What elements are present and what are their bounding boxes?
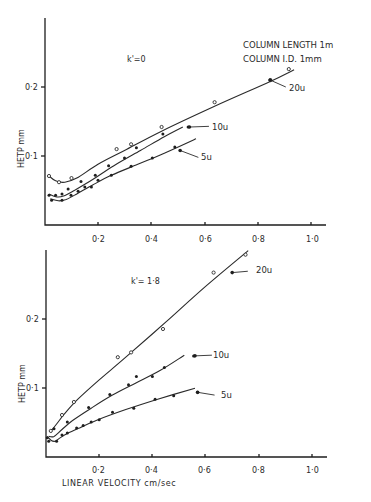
data-point <box>61 199 64 202</box>
data-point <box>87 406 90 409</box>
bottom-label-5u: 5u <box>221 390 232 400</box>
data-point <box>61 434 64 437</box>
data-point <box>77 190 80 193</box>
top-series-layer <box>47 68 294 202</box>
data-point <box>50 199 53 202</box>
data-point <box>72 400 75 403</box>
leader-dot <box>268 78 272 82</box>
curve-10u <box>49 127 183 197</box>
bottom-ytick-label-0.1: 0·1 <box>26 384 39 393</box>
data-point <box>132 407 135 410</box>
top-chart-panel: 0·2 0·1 0·2 0·4 0·6 0·8 1·0 HETP mm k'=0… <box>17 18 333 244</box>
top-xtick-label-0.4: 0·4 <box>145 235 158 244</box>
series-10u <box>46 354 212 439</box>
bottom-xtick-label-1.0: 1·0 <box>306 466 319 475</box>
data-point <box>111 411 114 414</box>
data-point <box>135 146 138 149</box>
data-point <box>163 366 166 369</box>
data-point <box>212 271 215 274</box>
top-k-label: k'=0 <box>127 55 146 64</box>
top-label-5u: 5u <box>201 152 212 162</box>
top-xtick-label-0.2: 0·2 <box>92 235 105 244</box>
leader-line-5u <box>198 392 215 395</box>
bottom-k-label: k'= 1·8 <box>131 277 160 286</box>
data-point <box>70 177 73 180</box>
data-point <box>75 427 78 430</box>
bottom-xtick-label-0.2: 0·2 <box>92 466 105 475</box>
data-point <box>90 186 93 189</box>
data-point <box>70 194 73 197</box>
bottom-axes <box>46 250 327 457</box>
leader-dot <box>230 271 234 275</box>
hetp-figure: 0·2 0·1 0·2 0·4 0·6 0·8 1·0 HETP mm k'=0… <box>0 0 371 502</box>
top-label-10u: 10u <box>212 122 228 132</box>
leader-line-20u <box>232 271 248 272</box>
leader-dot <box>196 391 200 395</box>
data-point <box>127 383 130 386</box>
data-point <box>80 180 83 183</box>
data-point <box>151 157 154 160</box>
series-10u <box>48 125 209 197</box>
data-point <box>49 429 52 432</box>
data-point <box>213 101 216 104</box>
data-point <box>123 157 126 160</box>
data-point <box>55 440 58 443</box>
top-xtick-label-1.0: 1·0 <box>306 235 319 244</box>
data-point <box>173 146 176 149</box>
leader-dot <box>188 125 192 129</box>
data-point <box>98 418 101 421</box>
data-point <box>107 164 110 167</box>
bottom-chart-panel: 0·2 0·1 0·2 0·4 0·6 0·8 1·0 LINEAR VELOC… <box>18 250 327 488</box>
data-point <box>47 174 50 177</box>
data-point <box>90 420 93 423</box>
bottom-xtick-label-0.6: 0·6 <box>198 466 211 475</box>
data-point <box>130 143 133 146</box>
data-point <box>244 253 247 256</box>
data-point <box>130 351 133 354</box>
data-point <box>151 375 154 378</box>
top-ytick-label-0.1: 0·1 <box>25 152 38 161</box>
series-5u <box>47 388 214 443</box>
data-point <box>94 174 97 177</box>
top-note-line1: COLUMN LENGTH 1m <box>243 40 333 50</box>
data-point <box>115 148 118 151</box>
data-point <box>54 194 57 197</box>
data-point <box>97 179 100 182</box>
data-point <box>154 398 157 401</box>
data-point <box>66 420 69 423</box>
data-point <box>67 188 70 191</box>
curve-20u <box>49 70 294 183</box>
data-point <box>172 394 175 397</box>
data-point <box>57 181 60 184</box>
data-point <box>110 174 113 177</box>
data-point <box>161 327 164 330</box>
leader-line-5u <box>180 150 198 157</box>
top-note-line2: COLUMN I.D. 1mm <box>243 54 322 64</box>
top-label-20u: 20u <box>289 83 305 93</box>
top-ytick-label-0.2: 0·2 <box>25 83 38 92</box>
data-point <box>60 413 63 416</box>
data-point <box>66 431 69 434</box>
data-point <box>116 356 119 359</box>
data-point <box>161 132 164 135</box>
data-point <box>287 68 290 71</box>
bottom-ylabel: HETP mm <box>18 364 27 403</box>
bottom-label-20u: 20u <box>256 265 272 275</box>
data-point <box>130 165 133 168</box>
bottom-ytick-label-0.2: 0·2 <box>26 315 39 324</box>
bottom-xtick-label-0.4: 0·4 <box>145 466 158 475</box>
series-20u <box>47 68 294 184</box>
data-point <box>53 427 56 430</box>
bottom-xlabel: LINEAR VELOCITY cm/sec <box>62 479 176 488</box>
leader-dot <box>193 354 197 358</box>
data-point <box>160 125 163 128</box>
leader-line-20u <box>270 80 286 87</box>
bottom-xtick-label-0.8: 0·8 <box>252 466 265 475</box>
data-point <box>135 375 138 378</box>
data-point <box>48 194 51 197</box>
data-point <box>83 186 86 189</box>
leader-line-10u <box>195 355 212 356</box>
data-point <box>61 192 64 195</box>
leader-dot <box>178 149 182 153</box>
data-point <box>108 393 111 396</box>
